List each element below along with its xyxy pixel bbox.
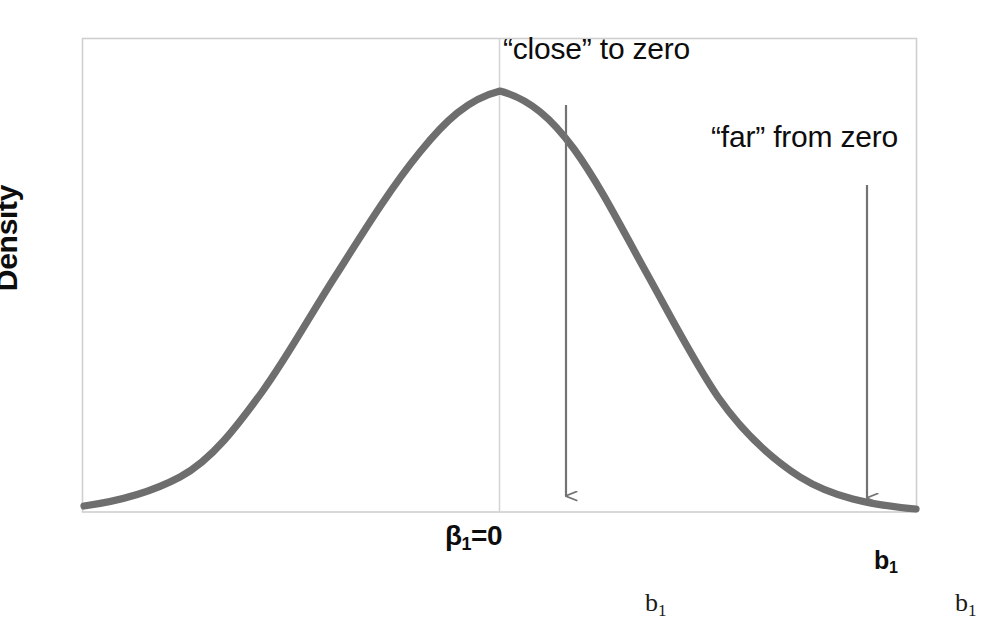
- annotation-far-from-zero: “far” from zero: [711, 120, 898, 154]
- b-symbol: b: [955, 588, 968, 617]
- b-subscript: 1: [968, 601, 977, 620]
- annotation-close-to-zero: “close” to zero: [503, 32, 690, 66]
- y-axis-label: Density: [0, 178, 24, 298]
- observed-estimate-label: b1: [874, 546, 898, 577]
- beta-equals-zero: =0: [471, 520, 502, 551]
- b-subscript: 1: [658, 601, 667, 620]
- x-axis-label-center: b1: [645, 588, 667, 621]
- b-symbol: b: [874, 546, 889, 574]
- x-axis-label-right: b1: [955, 588, 977, 621]
- beta-symbol: β: [445, 520, 462, 551]
- null-hypothesis-label: β1=0: [445, 520, 502, 555]
- b-symbol: b: [645, 588, 658, 617]
- beta-subscript: 1: [462, 534, 472, 554]
- figure-canvas: Density “close” to zero “far” from zero …: [0, 0, 995, 643]
- b-subscript: 1: [889, 559, 898, 576]
